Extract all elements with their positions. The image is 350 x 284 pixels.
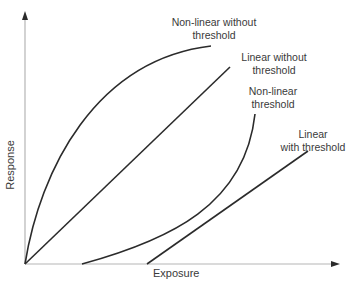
y-axis-arrow-icon (22, 11, 28, 20)
label-line: threshold (224, 64, 324, 77)
label-linear-with-threshold: Linear with threshold (268, 128, 350, 154)
label-nonlinear-threshold: Non-linear threshold (228, 85, 318, 111)
label-line: Linear (268, 128, 350, 141)
label-line: Non-linear without (154, 16, 274, 29)
label-line: Non-linear (228, 85, 318, 98)
label-linear-without-threshold: Linear without threshold (224, 51, 324, 77)
curve-nonlinear-without-threshold (25, 46, 211, 264)
label-line: threshold (154, 29, 274, 42)
x-axis-arrow-icon (331, 261, 340, 267)
y-axis-label: Response (4, 137, 16, 193)
label-line: threshold (228, 98, 318, 111)
label-line: Linear without (224, 51, 324, 64)
x-axis-label: Exposure (153, 267, 199, 279)
label-line: with threshold (268, 141, 350, 154)
curve-nonlinear-threshold (82, 114, 255, 264)
curve-linear-with-threshold (147, 151, 308, 264)
label-nonlinear-without-threshold: Non-linear without threshold (154, 16, 274, 42)
